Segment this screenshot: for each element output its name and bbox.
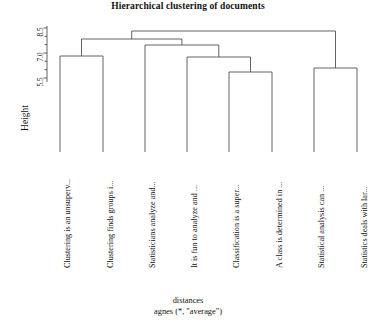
leaf-label-5: A class is determined in ... bbox=[275, 182, 284, 268]
x-axis-caption-line1: distances bbox=[0, 296, 376, 307]
branch-root bbox=[132, 31, 336, 68]
branch-m1 bbox=[60, 56, 103, 152]
y-axis bbox=[44, 26, 48, 82]
branch-m6 bbox=[82, 39, 182, 56]
branch-m3 bbox=[187, 57, 251, 152]
dendrogram-tree bbox=[60, 31, 357, 152]
x-axis-caption-line2: agnes (*, "average") bbox=[0, 307, 376, 318]
leaf-label-3: It is fun to analyze and ... bbox=[190, 185, 199, 268]
branch-m5 bbox=[314, 68, 357, 152]
branch-m2 bbox=[229, 72, 272, 152]
leaf-label-0: Clustering is an unsuperv... bbox=[63, 179, 72, 268]
dendrogram-plot: Hierarchical clustering of documents Hei… bbox=[0, 0, 376, 330]
leaf-label-7: Statistics deals with lar... bbox=[360, 187, 369, 268]
x-axis-caption: distances agnes (*, "average") bbox=[0, 296, 376, 317]
leaf-label-6: Statistical analysis can ... bbox=[317, 186, 326, 268]
leaf-label-4: Classification is a super... bbox=[232, 184, 241, 268]
dendrogram-svg bbox=[0, 0, 376, 330]
leaf-label-1: Clustering finds groups i... bbox=[106, 181, 115, 268]
leaf-label-2: Statisticians analyze and... bbox=[148, 181, 157, 268]
branch-m4 bbox=[145, 45, 219, 152]
